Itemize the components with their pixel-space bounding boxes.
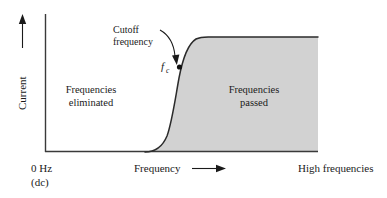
frequencies-eliminated-label-line1: Frequencies bbox=[66, 84, 117, 95]
cutoff-frequency-symbol-subscript: c bbox=[166, 66, 170, 75]
cutoff-frequency-label-line2: frequency bbox=[113, 36, 153, 47]
up-arrow-icon bbox=[19, 14, 26, 48]
x-axis-origin-label-line1: 0 Hz bbox=[31, 162, 52, 174]
frequencies-eliminated-label-line2: eliminated bbox=[69, 97, 114, 108]
right-arrow-icon bbox=[192, 165, 226, 172]
filter-response-figure: Current Frequencies eliminated Frequenci… bbox=[0, 0, 387, 198]
point-marker-icon bbox=[177, 64, 182, 69]
x-axis-label: Frequency bbox=[134, 162, 181, 174]
cutoff-frequency-label-line1: Cutoff bbox=[113, 24, 140, 35]
frequencies-passed-label-line2: passed bbox=[240, 97, 269, 108]
x-axis-end-label: High frequencies bbox=[298, 162, 373, 174]
y-axis-label: Current bbox=[16, 76, 28, 110]
frequencies-passed-label-line1: Frequencies bbox=[229, 84, 280, 95]
x-axis-origin-label-line2: (dc) bbox=[31, 176, 49, 189]
